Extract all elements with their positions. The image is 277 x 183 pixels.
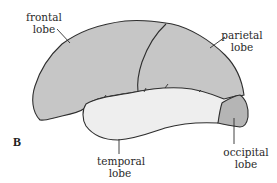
- occipital-label-line2: lobe: [222, 158, 270, 170]
- parietal-label-line2: lobe: [220, 41, 264, 53]
- parietal-label-line1: parietal: [220, 29, 264, 41]
- frontal-label-line2: lobe: [26, 23, 62, 35]
- temporal-label-line2: lobe: [97, 167, 143, 179]
- temporal-label-line1: temporal: [97, 155, 143, 167]
- occipital-label-line1: occipital: [222, 146, 270, 158]
- frontal-lobe-label: frontal lobe: [26, 11, 62, 35]
- frontal-label-line1: frontal: [26, 11, 62, 23]
- temporal-lobe-label: temporal lobe: [97, 155, 143, 179]
- occipital-lobe-label: occipital lobe: [222, 146, 270, 170]
- brain-lobes-diagram: frontal lobe parietal lobe temporal lobe…: [0, 0, 277, 183]
- parietal-lobe-label: parietal lobe: [220, 29, 264, 53]
- panel-label: B: [13, 135, 21, 150]
